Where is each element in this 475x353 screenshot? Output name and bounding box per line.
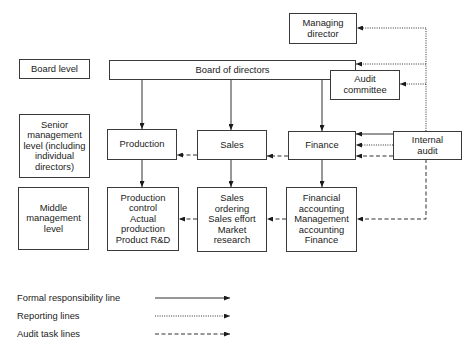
audit-committee-box: Audit committee <box>330 70 400 100</box>
legend-formal-responsibility-label: Formal responsibility line <box>17 292 120 303</box>
legend-audit-task-lines-label: Audit task lines <box>17 328 80 339</box>
sales-ordering-box: Sales ordering Sales effort Market resea… <box>197 187 267 252</box>
middle-management-level-label: Middle management level <box>18 187 89 250</box>
internal-audit-to-financial-accounting-audit-line <box>357 159 426 219</box>
managing-director-box: Managing director <box>289 13 357 44</box>
senior-management-level-label: Senior management level (including indiv… <box>19 114 90 178</box>
sales-box: Sales <box>197 130 267 160</box>
board-level-label: Board level <box>19 59 90 79</box>
org-chart-diagram: Board level Senior management level (inc… <box>0 0 475 353</box>
board-of-directors-box: Board of directors <box>109 60 356 80</box>
financial-accounting-box: Financial accounting Management accounti… <box>286 187 357 252</box>
legend-samples <box>155 298 230 334</box>
finance-box: Finance <box>288 131 356 160</box>
legend-reporting-lines-label: Reporting lines <box>17 310 80 321</box>
production-control-box: Production control Actual production Pro… <box>107 187 179 251</box>
production-box: Production <box>107 129 177 160</box>
internal-audit-box: Internal audit <box>393 131 462 160</box>
